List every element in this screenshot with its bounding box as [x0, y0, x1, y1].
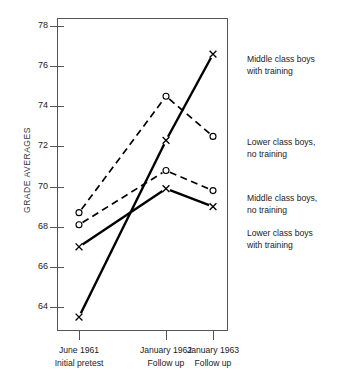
- x-axis-tick-label-secondary: Follow up: [165, 357, 261, 370]
- y-axis-tick: [50, 146, 64, 147]
- y-axis-tick: [50, 26, 64, 27]
- y-axis-tick: [50, 307, 64, 308]
- y-axis-tick-label: 70: [18, 181, 48, 191]
- y-axis-tick-label: 78: [18, 20, 48, 30]
- x-axis-tick: [213, 331, 214, 340]
- y-axis-tick-label: 72: [18, 140, 48, 150]
- legend-item-label-line1: Lower class boys,: [247, 137, 315, 147]
- legend-item-label-line2: no training: [247, 148, 359, 160]
- y-axis-tick-label: 76: [18, 60, 48, 70]
- x-axis-tick: [79, 331, 80, 340]
- y-axis-tick-label: 74: [18, 100, 48, 110]
- legend-item-label-line1: Middle class boys,: [247, 193, 317, 203]
- x-axis-tick-label-primary: June 1961: [59, 345, 99, 355]
- plot-area: [57, 18, 228, 331]
- legend-item: Lower class boys,no training: [247, 136, 359, 160]
- y-axis-tick: [50, 66, 64, 67]
- legend-item: Lower class boyswith training: [247, 227, 359, 251]
- legend-item: Middle class boys,no training: [247, 192, 359, 216]
- y-axis-tick-label: 64: [18, 301, 48, 311]
- x-axis-tick-label: June 1961Initial pretest: [31, 344, 127, 369]
- legend-item-label-line1: Lower class boys: [247, 228, 313, 238]
- legend-item-label-line2: with training: [247, 239, 359, 251]
- legend-item: Middle class boyswith training: [247, 53, 359, 77]
- legend-item-label-line2: with training: [247, 65, 359, 77]
- legend-item-label-line1: Middle class boys: [247, 54, 315, 64]
- y-axis-tick: [50, 106, 64, 107]
- x-axis-tick: [166, 331, 167, 340]
- legend-item-label-line2: no training: [247, 204, 359, 216]
- y-axis-tick-label: 68: [18, 221, 48, 231]
- x-axis-tick-label-primary: January 1963: [187, 345, 239, 355]
- x-axis-tick-label-secondary: Initial pretest: [31, 357, 127, 370]
- x-axis-tick-label: January 1963Follow up: [165, 344, 261, 369]
- y-axis-tick-label: 66: [18, 261, 48, 271]
- y-axis-tick: [50, 227, 64, 228]
- y-axis-tick: [50, 267, 64, 268]
- y-axis-tick: [50, 187, 64, 188]
- chart-figure: GRADE AVERAGES 6466687072747678 June 196…: [0, 0, 360, 377]
